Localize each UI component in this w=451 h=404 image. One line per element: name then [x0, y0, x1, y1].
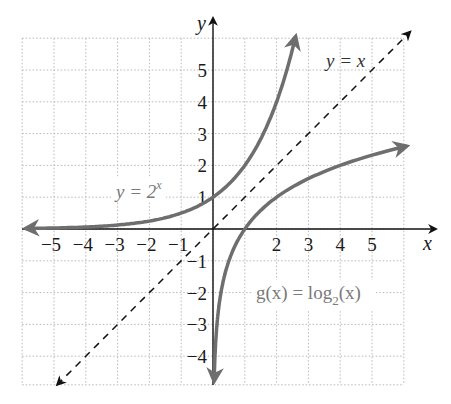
- svg-text:y = x: y = x: [324, 50, 366, 71]
- x-tick-label: 2: [272, 234, 282, 255]
- y-tick-label: 2: [198, 155, 208, 176]
- x-tick-label: −3: [104, 234, 124, 255]
- y-axis-label: y: [195, 12, 206, 35]
- exp-curve-label: y = 2x: [112, 178, 166, 202]
- x-tick-label: 3: [304, 234, 314, 255]
- x-tick-label: 5: [367, 234, 377, 255]
- svg-text:y = 2x: y = 2x: [114, 178, 162, 202]
- y-tick-label: 4: [198, 92, 208, 113]
- identity-line-label: y = x: [324, 50, 366, 71]
- y-tick-label: 5: [198, 60, 208, 81]
- log-curve-label: g(x) = log2(x): [252, 280, 376, 310]
- x-tick-label: 4: [335, 234, 345, 255]
- y-tick-label: 3: [198, 124, 208, 145]
- y-tick-label: −1: [187, 251, 207, 272]
- identity-line-y-equals-x: [57, 32, 410, 385]
- x-tick-label: −4: [73, 234, 94, 255]
- x-tick-label: −2: [136, 234, 156, 255]
- x-tick-label: −5: [41, 234, 61, 255]
- x-tick-labels: −5−4−3−2−12345: [41, 234, 377, 255]
- y-tick-label: −4: [187, 346, 208, 367]
- x-tick-label: −1: [168, 234, 188, 255]
- function-graph: y x −5−4−3−2−12345 54321−1−2−3−4 y = 2x …: [0, 0, 451, 404]
- y-tick-label: −2: [187, 283, 207, 304]
- y-tick-label: −3: [187, 314, 207, 335]
- x-axis-label: x: [422, 232, 432, 254]
- y-tick-labels: 54321−1−2−3−4: [187, 60, 208, 367]
- logarithm-curve: [214, 146, 407, 382]
